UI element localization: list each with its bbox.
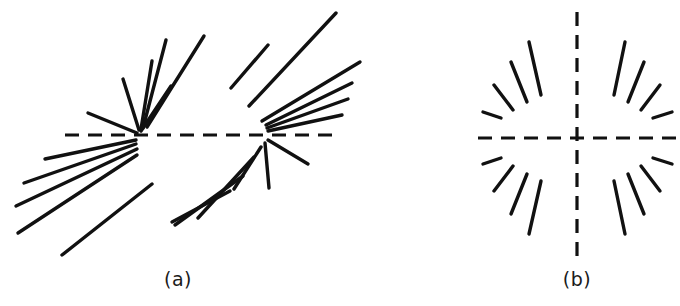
panel-a-caption: (a) [164,268,192,290]
figure-container: (a) (b) [0,0,680,306]
panel-b-caption: (b) [563,268,591,290]
line-illusion-figure [0,0,680,306]
